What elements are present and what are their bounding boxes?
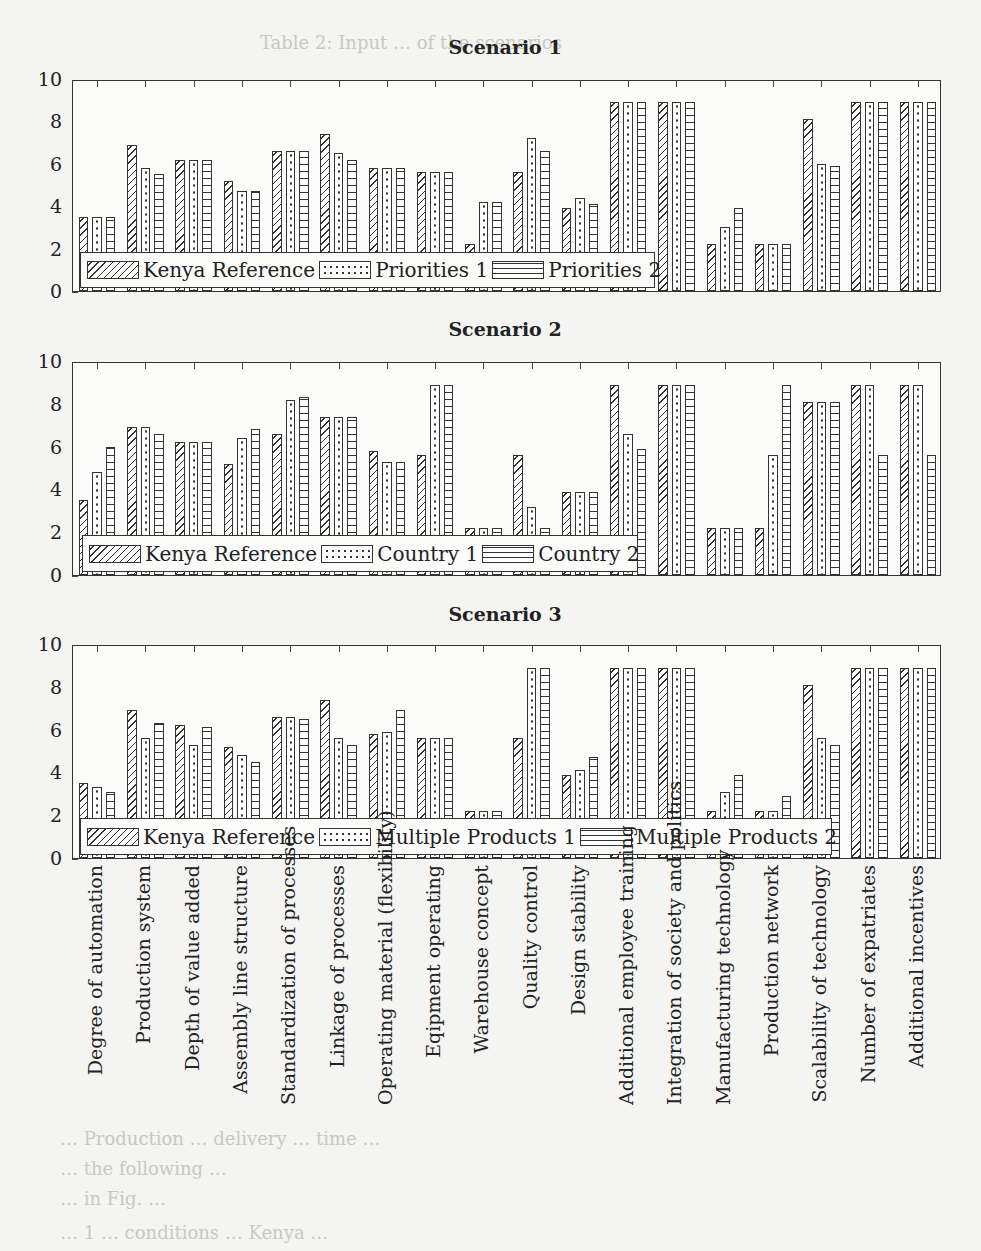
y-tick-label: 4 — [32, 195, 62, 217]
bar — [755, 528, 765, 575]
x-tick — [628, 363, 629, 369]
y-tick — [72, 576, 78, 577]
x-tick — [387, 363, 388, 369]
x-category-label: Integration of society and politics — [663, 865, 685, 1105]
x-tick — [145, 646, 146, 652]
bar — [672, 102, 682, 291]
x-tick — [628, 646, 629, 652]
x-tick — [821, 363, 822, 369]
y-tick-label: 8 — [32, 393, 62, 415]
x-tick — [725, 646, 726, 652]
legend-label: Priorities 2 — [548, 258, 661, 282]
x-tick — [870, 646, 871, 652]
bar — [878, 455, 888, 575]
hatch-pattern-swatch-icon — [87, 261, 139, 279]
x-category-label: Quality control — [519, 865, 541, 1105]
x-tick — [242, 363, 243, 369]
x-tick — [532, 646, 533, 652]
x-tick — [773, 646, 774, 652]
x-category-label: Manufacturing technology — [712, 865, 734, 1105]
hlines-pattern-swatch-icon — [492, 261, 544, 279]
x-tick — [145, 81, 146, 87]
legend-item: Country 1 — [321, 542, 478, 566]
x-category-label: Standardization of processes — [277, 865, 299, 1105]
x-category-label: Additional incentives — [905, 865, 927, 1105]
bar — [851, 668, 861, 858]
legend-label: Multiple Products 1 — [375, 825, 576, 849]
x-category-label: Degree of automation — [84, 865, 106, 1105]
y-tick — [72, 292, 78, 293]
x-axis-category-labels: Degree of automationProduction systemDep… — [0, 865, 981, 1125]
chart-title: Scenario 3 — [0, 603, 981, 625]
faded-line: … the following … — [60, 1158, 227, 1179]
x-category-label: Number of expatriates — [857, 865, 879, 1105]
x-tick — [821, 646, 822, 652]
x-tick — [145, 363, 146, 369]
bar — [927, 668, 937, 858]
x-tick — [242, 81, 243, 87]
x-tick — [580, 646, 581, 652]
bar — [865, 668, 875, 858]
legend-item: Priorities 1 — [319, 258, 488, 282]
y-tick-label: 8 — [32, 110, 62, 132]
legend-label: Kenya Reference — [143, 258, 315, 282]
bar — [817, 164, 827, 291]
y-tick-label: 6 — [32, 719, 62, 741]
bar — [927, 102, 937, 291]
bar — [878, 102, 888, 291]
bar — [913, 668, 923, 858]
bar — [900, 385, 910, 575]
bar — [768, 455, 778, 575]
bar — [803, 402, 813, 575]
x-tick — [435, 363, 436, 369]
legend-item: Kenya Reference — [87, 258, 315, 282]
x-category-label: Linkage of processes — [326, 865, 348, 1105]
x-tick — [532, 81, 533, 87]
chart-title: Scenario 1 — [0, 36, 981, 58]
y-tick-label: 6 — [32, 436, 62, 458]
legend-label: Country 1 — [377, 542, 478, 566]
bar — [707, 528, 717, 575]
bar — [734, 208, 744, 291]
hlines-pattern-swatch-icon — [482, 545, 534, 563]
bar — [768, 244, 778, 291]
y-tick-label: 10 — [32, 350, 62, 372]
bar — [878, 668, 888, 858]
x-tick — [435, 81, 436, 87]
bar — [865, 385, 875, 575]
x-tick — [290, 646, 291, 652]
x-tick — [339, 646, 340, 652]
x-tick — [725, 81, 726, 87]
faded-line: … in Fig. … — [60, 1188, 166, 1209]
legend: Kenya ReferenceCountry 1Country 2 — [82, 535, 638, 572]
bar — [672, 385, 682, 575]
bar — [685, 385, 695, 575]
bar — [830, 402, 840, 575]
x-tick — [821, 81, 822, 87]
y-tick-label: 4 — [32, 761, 62, 783]
bar — [913, 102, 923, 291]
x-tick — [194, 363, 195, 369]
bar — [782, 385, 792, 575]
hatch-pattern-swatch-icon — [87, 828, 139, 846]
x-tick — [435, 646, 436, 652]
x-tick — [339, 363, 340, 369]
x-tick — [387, 646, 388, 652]
x-tick — [870, 81, 871, 87]
bar — [865, 102, 875, 291]
bar — [782, 244, 792, 291]
x-tick — [773, 81, 774, 87]
x-category-label: Design stability — [567, 865, 589, 1105]
x-tick — [676, 363, 677, 369]
x-category-label: Production system — [132, 865, 154, 1105]
bar — [913, 385, 923, 575]
bar — [720, 528, 730, 575]
legend-item: Multiple Products 1 — [319, 825, 576, 849]
x-tick — [725, 363, 726, 369]
x-category-label: Depth of value added — [181, 865, 203, 1105]
legend-item: Kenya Reference — [89, 542, 317, 566]
y-tick — [72, 859, 78, 860]
x-tick — [918, 81, 919, 87]
legend-label: Priorities 1 — [375, 258, 488, 282]
faded-line: … 1 … conditions … Kenya … — [60, 1222, 328, 1243]
